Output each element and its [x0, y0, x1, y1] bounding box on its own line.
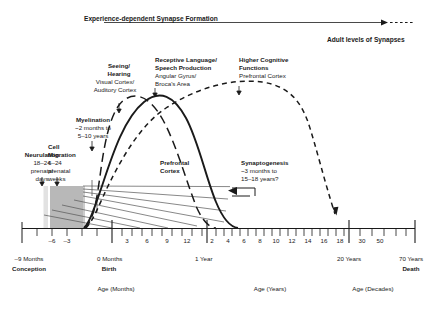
tick-label-decades-1: 50: [370, 238, 390, 245]
cell-migration-line2: prenatal: [48, 168, 70, 175]
neurulation-line1: 18–24: [12, 160, 72, 167]
milestone-value-birth: 0 Months: [97, 256, 122, 263]
milestone-name-conception: Conception: [0, 266, 58, 273]
experience-dependent-title: Experience-dependent Synapse Formation: [84, 15, 218, 22]
myelination-line1: ~2 months to: [62, 125, 124, 132]
seeing-hearing-line1: Visual Cortex/: [80, 79, 150, 86]
tick-label-decades-0: 30: [352, 238, 372, 245]
synaptogenesis-bracket: [228, 187, 255, 196]
seeing-hearing-title: Seeing/: [88, 63, 150, 70]
synaptogenesis-line2: 15–18 years?: [241, 176, 279, 183]
higher-cognitive-line1: Prefrontal Cortex: [239, 73, 286, 80]
synaptogenesis-line1: ~3 months to: [241, 168, 277, 175]
milestone-value-one-year: 1 Year: [195, 256, 213, 263]
curve-higher-cognitive: [86, 81, 335, 228]
myelination-title: Myelination: [62, 117, 124, 124]
seeing-hearing-title2: Hearing: [88, 71, 150, 78]
cell-migration-title: Cell: [48, 144, 59, 151]
milestone-name-death: Death: [388, 266, 434, 273]
tick-label-months-3: 6: [137, 238, 157, 245]
milestone-name-birth: Birth: [86, 266, 132, 273]
synaptogenesis-title: Synaptogenesis: [241, 160, 288, 167]
axis-group-label-years: Age (Years): [230, 286, 310, 293]
tick-label-months-4: 9: [157, 238, 177, 245]
brain-development-figure: Experience-dependent Synapse Formation A…: [0, 0, 439, 312]
cell-migration-title2: Migration: [48, 152, 76, 159]
prefrontal-cortex-title2: Cortex: [160, 168, 180, 175]
seeing-hearing-line2: Auditory Cortex: [80, 87, 150, 94]
milestone-value-conception: –9 Months: [0, 256, 58, 263]
axis-group-label-decades: Age (Decades): [330, 286, 416, 293]
axis-group-label-months: Age (Months): [76, 286, 156, 293]
tick-label-months-5: 12: [177, 238, 197, 245]
cell-migration-line1: 6–24: [48, 160, 62, 167]
cell-migration-line3: weeks: [48, 176, 66, 183]
milestone-value-twenty-years: 20 Years: [327, 256, 371, 263]
myelination-line2: 5–10 years: [62, 133, 124, 140]
tick-label-years-8: 18: [330, 238, 350, 245]
receptive-language-line1: Angular Gyrus/: [155, 73, 196, 80]
prefrontal-cortex-title: Prefrontal: [160, 160, 189, 167]
tick-label-months-2: 3: [117, 238, 137, 245]
receptive-language-title: Receptive Language/: [155, 57, 217, 64]
cell-migration-block: [44, 186, 84, 228]
milestone-value-seventy-years: 70 Years: [388, 256, 434, 263]
higher-cognitive-title: Higher Cognitive: [239, 57, 289, 64]
adult-levels-label: Adult levels of Synapses: [327, 36, 405, 43]
receptive-language-title2: Speech Production: [155, 65, 211, 72]
higher-cognitive-title2: Functions: [239, 65, 269, 72]
tick-label-months-1: –3: [57, 238, 77, 245]
receptive-language-line2: Broca's Area: [155, 81, 190, 88]
